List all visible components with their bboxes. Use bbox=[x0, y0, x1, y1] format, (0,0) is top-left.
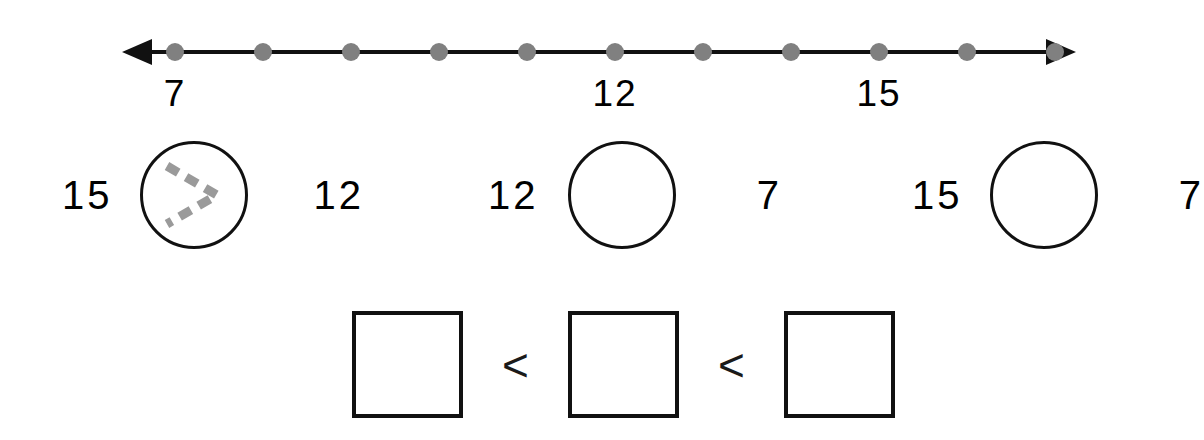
ordering-operator-1: < bbox=[463, 342, 568, 388]
comparison-problem-2: 12 7 bbox=[488, 130, 782, 260]
comparison-row: 15 12 12 7 15 7 bbox=[0, 130, 1185, 270]
comparison-1-answer-circle[interactable] bbox=[140, 141, 248, 249]
comparison-1-left-number: 15 bbox=[62, 175, 140, 215]
ordering-sequence: < < bbox=[352, 311, 895, 418]
comparison-1-right-number: 12 bbox=[248, 175, 364, 215]
number-line-dot[interactable] bbox=[430, 43, 448, 61]
comparison-2-right-number: 7 bbox=[676, 175, 782, 215]
number-line-label-15: 15 bbox=[839, 75, 919, 112]
number-line-dot[interactable] bbox=[342, 43, 360, 61]
greater-than-trace-icon bbox=[159, 158, 229, 232]
number-line-dot[interactable] bbox=[870, 43, 888, 61]
ordering-box-3[interactable] bbox=[784, 311, 895, 418]
number-line-label-7: 7 bbox=[135, 75, 215, 112]
comparison-3-answer-circle[interactable] bbox=[990, 141, 1098, 249]
number-line-dot[interactable] bbox=[1046, 43, 1064, 61]
ordering-row: < < bbox=[0, 300, 1185, 430]
comparison-3-left-number: 15 bbox=[912, 175, 990, 215]
comparison-problem-1: 15 12 bbox=[62, 130, 364, 260]
number-line-dot[interactable] bbox=[518, 43, 536, 61]
ordering-box-1[interactable] bbox=[352, 311, 463, 418]
comparison-problem-3: 15 7 bbox=[912, 130, 1204, 260]
number-line-graphic bbox=[0, 0, 1185, 80]
number-line-dot[interactable] bbox=[694, 43, 712, 61]
number-line-dot[interactable] bbox=[782, 43, 800, 61]
number-line-dot[interactable] bbox=[254, 43, 272, 61]
number-line-section: 7 12 15 bbox=[0, 0, 1185, 120]
number-line-dot[interactable] bbox=[958, 43, 976, 61]
comparison-2-left-number: 12 bbox=[488, 175, 568, 215]
number-line-left-arrow-icon bbox=[122, 39, 152, 65]
number-line-dot[interactable] bbox=[166, 43, 184, 61]
number-line-label-12: 12 bbox=[575, 75, 655, 112]
number-line-dot[interactable] bbox=[606, 43, 624, 61]
comparison-2-answer-circle[interactable] bbox=[568, 141, 676, 249]
ordering-operator-2: < bbox=[679, 342, 784, 388]
ordering-box-2[interactable] bbox=[568, 311, 679, 418]
comparison-3-right-number: 7 bbox=[1098, 175, 1204, 215]
